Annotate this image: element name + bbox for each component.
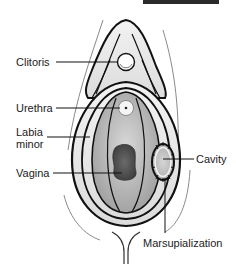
- label-labia-minor-line1: Labia: [16, 126, 43, 138]
- label-vagina: Vagina: [16, 167, 49, 179]
- clitoris: [118, 54, 135, 71]
- label-labia-minor-line2: minor: [16, 138, 44, 150]
- label-clitoris: Clitoris: [16, 56, 50, 68]
- label-urethra: Urethra: [16, 102, 53, 114]
- urethra: [119, 101, 134, 116]
- label-cavity: Cavity: [196, 153, 227, 165]
- label-marsupialization: Marsupialization: [143, 237, 222, 249]
- vaginal-opening: [113, 144, 136, 180]
- perineum: [112, 232, 140, 264]
- marsupialized-cavity: [152, 142, 174, 182]
